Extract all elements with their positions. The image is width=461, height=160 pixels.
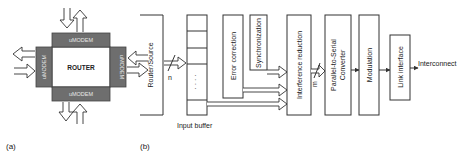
umodem-right-label: uMODEM <box>119 55 125 80</box>
umodem-top-label: uMODEM <box>69 37 94 43</box>
input-bus-arrow-icon <box>164 57 186 69</box>
panel-a-label: (a) <box>6 142 16 151</box>
buffer-ellipsis: · · · · <box>192 74 199 89</box>
synchronization-label: Synchronization <box>255 18 263 68</box>
umodem-left-label: uMODEM <box>41 55 47 80</box>
panel-b-label: (b) <box>140 142 150 151</box>
ec-to-ir-connector <box>243 84 287 96</box>
bottom-out-arrow-icon <box>59 102 73 121</box>
error-correction-label: Error correction <box>230 32 237 80</box>
router-source-label: Router/Source <box>147 42 154 87</box>
diagram-canvas: ROUTER uMODEM uMODEM uMODEM uMODEM (a) R… <box>0 0 461 160</box>
modulation-label: Modulation <box>366 48 373 82</box>
buffer-to-ir-connector <box>207 98 287 110</box>
bottom-in-arrow-icon <box>73 104 87 124</box>
panel-a: ROUTER uMODEM uMODEM uMODEM uMODEM (a) <box>6 8 148 151</box>
link-interface-label: Link interface <box>397 46 404 88</box>
bus-width-m: m <box>311 81 318 87</box>
router-label: ROUTER <box>67 64 95 71</box>
sync-to-ir-connector <box>267 66 287 78</box>
p2s-label-1: Parallel-to-Serial <box>330 39 337 91</box>
right-in-arrow-icon <box>128 51 148 65</box>
interference-reduction-label: Interference reduction <box>296 31 303 99</box>
top-out-arrow-icon <box>73 10 87 32</box>
p2s-label-2: Converter <box>339 49 346 80</box>
panel-b: Router/Source n · · · · Input buffer Err… <box>140 15 457 151</box>
left-out-arrow-icon <box>13 47 35 61</box>
left-in-arrow-icon <box>14 64 35 78</box>
top-in-arrow-icon <box>60 8 74 28</box>
parallel-to-serial-block <box>325 15 351 115</box>
input-buffer <box>187 15 207 115</box>
umodem-bottom-label: uMODEM <box>69 91 94 97</box>
interconnect-label: Interconnect <box>418 60 457 67</box>
right-out-arrow-icon <box>127 63 148 77</box>
input-buffer-label: Input buffer <box>177 122 213 130</box>
bus-width-n: n <box>168 74 172 81</box>
